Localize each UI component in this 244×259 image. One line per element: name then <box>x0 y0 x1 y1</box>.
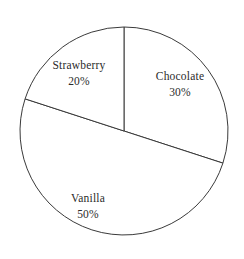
pie-chart-svg <box>0 0 244 259</box>
pie-label-chocolate: Chocolate 30% <box>156 69 204 100</box>
pie-label-vanilla: Vanilla 50% <box>71 191 105 222</box>
pie-label-vanilla-value: 50% <box>71 207 105 223</box>
pie-label-vanilla-name: Vanilla <box>71 191 105 207</box>
pie-label-strawberry-value: 20% <box>52 74 105 90</box>
pie-label-strawberry: Strawberry 20% <box>52 58 105 89</box>
pie-chart: Chocolate 30% Vanilla 50% Strawberry 20% <box>0 0 244 259</box>
pie-label-chocolate-value: 30% <box>156 85 204 101</box>
pie-label-chocolate-name: Chocolate <box>156 69 204 85</box>
pie-label-strawberry-name: Strawberry <box>52 58 105 74</box>
